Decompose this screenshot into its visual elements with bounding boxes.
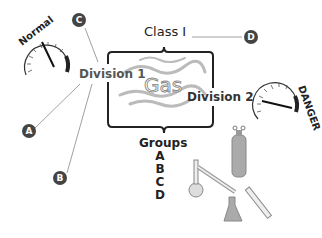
hazardous-location-diagram: Gas Normal bbox=[0, 0, 322, 238]
groups-label: Groups bbox=[139, 136, 187, 150]
groups-list: A B C D bbox=[150, 150, 170, 202]
lab-apparatus-icon bbox=[189, 126, 271, 221]
callout-badge-d: D bbox=[244, 30, 258, 44]
line-a bbox=[35, 84, 80, 128]
gas-label-art: Gas bbox=[144, 73, 182, 97]
class-title: Class I bbox=[144, 24, 186, 39]
callout-badge-c: C bbox=[72, 13, 86, 27]
normal-gauge-icon: Normal bbox=[16, 14, 68, 75]
line-c bbox=[85, 28, 98, 62]
group-d: D bbox=[150, 189, 170, 202]
callout-badge-b: B bbox=[53, 171, 67, 185]
graduated-cylinder-icon bbox=[245, 187, 271, 218]
round-flask-icon bbox=[189, 183, 203, 197]
division-2-label: Division 2 bbox=[187, 90, 254, 104]
svg-text:Normal: Normal bbox=[16, 14, 55, 48]
gas-cylinder-icon bbox=[232, 135, 246, 177]
erlenmeyer-flask-icon bbox=[224, 197, 242, 221]
division-1-label: Division 1 bbox=[79, 67, 146, 81]
svg-text:DANGER: DANGER bbox=[296, 84, 322, 132]
callout-badge-a: A bbox=[22, 124, 36, 138]
line-b bbox=[67, 84, 92, 173]
danger-gauge-icon: DANGER bbox=[253, 83, 322, 133]
